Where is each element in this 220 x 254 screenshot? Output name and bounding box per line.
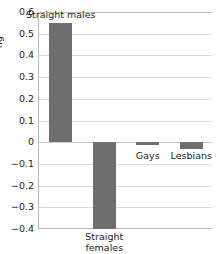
bar xyxy=(136,142,159,145)
bar-label-straight-females: Straightfemales xyxy=(64,231,144,253)
bar xyxy=(93,142,116,229)
y-tick-label: −0.3 xyxy=(4,202,34,212)
y-tick-label: 0.2 xyxy=(4,94,34,104)
y-tick-label: 0.5 xyxy=(4,29,34,39)
gridline xyxy=(39,207,212,208)
plot-area: Straight malesStraightfemalesGaysLesbian… xyxy=(38,12,212,229)
y-tick-label: 0.4 xyxy=(4,50,34,60)
y-tick-label: 0 xyxy=(4,137,34,147)
plot-frame-bottom xyxy=(39,228,212,229)
gridline xyxy=(39,164,212,165)
bar-label-straight-males: Straight males xyxy=(16,9,106,20)
y-tick-label: −0.2 xyxy=(4,181,34,191)
bar-label-lesbians: Lesbians xyxy=(157,150,220,161)
bar xyxy=(180,142,203,149)
bar xyxy=(49,23,72,142)
bar-chart: ng 0.60.50.40.30.20.10−0.1−0.2−0.3−0.4 S… xyxy=(0,0,220,254)
y-tick-label: 0.3 xyxy=(4,72,34,82)
y-tick-label: 0.1 xyxy=(4,116,34,126)
y-tick-label: −0.1 xyxy=(4,159,34,169)
gridline xyxy=(39,186,212,187)
y-axis-tick-labels: 0.60.50.40.30.20.10−0.1−0.2−0.3−0.4 xyxy=(4,0,34,254)
y-tick-label: −0.4 xyxy=(4,224,34,234)
